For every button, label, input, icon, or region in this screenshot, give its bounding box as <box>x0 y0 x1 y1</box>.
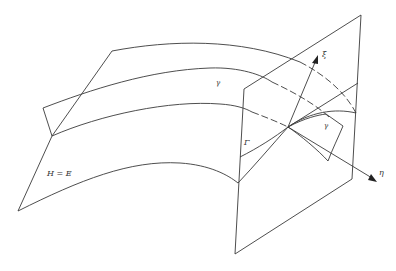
small-gamma-patch <box>288 114 343 161</box>
label-surface: H = E <box>47 170 72 178</box>
plane-top-edge <box>244 15 361 89</box>
surface-top-edge <box>112 43 300 62</box>
gamma-curve-lower <box>238 127 288 183</box>
label-xi: ξ <box>322 51 326 59</box>
label-eta: η <box>379 169 384 177</box>
label-gamma-main: γ <box>216 80 220 87</box>
curve-gamma-middle <box>52 103 252 136</box>
plane-right-edge <box>352 15 361 179</box>
eta-arrowhead <box>368 174 377 182</box>
energy-surface <box>18 43 356 211</box>
phase-space-diagram: H = E γ γ Γ ξ η <box>0 0 396 271</box>
plane-bottom-edge <box>235 179 352 254</box>
eta-axis-line <box>288 127 372 178</box>
plane-left-edge <box>235 89 244 254</box>
curve-gamma-middle-hidden <box>252 112 288 127</box>
label-gamma-small: γ <box>324 123 328 130</box>
curve-gamma-upper <box>43 68 272 108</box>
section-curve <box>288 111 356 127</box>
label-Gamma: Γ <box>244 139 250 147</box>
diagram-svg <box>0 0 396 271</box>
xi-arrowhead <box>312 55 318 64</box>
surface-top-edge-hidden <box>300 62 356 113</box>
surface-flap-edge <box>43 108 52 136</box>
